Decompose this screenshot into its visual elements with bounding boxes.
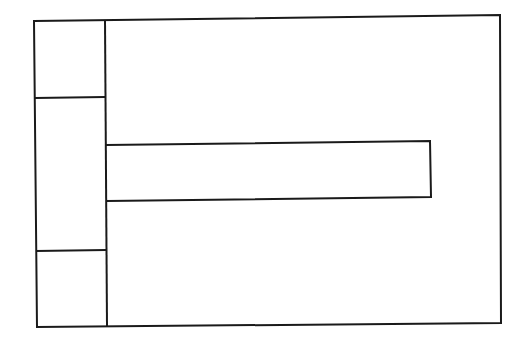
wireframe-diagram	[0, 0, 527, 344]
left-column-top-divider	[35, 97, 105, 98]
left-column-bottom-divider	[36, 250, 106, 251]
horizontal-bar	[106, 141, 431, 201]
left-column-divider	[105, 20, 107, 326]
